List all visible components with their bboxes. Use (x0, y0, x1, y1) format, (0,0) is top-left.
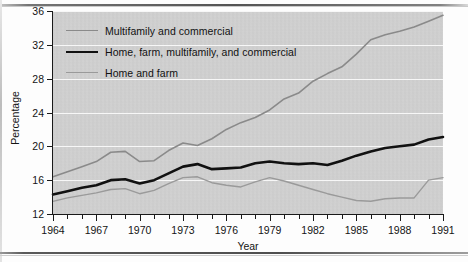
x-axis-tick-major (400, 215, 401, 221)
y-axis-line (52, 11, 53, 215)
x-axis-tick-label: 1982 (301, 224, 324, 236)
chart-figure: 12162024283236 1964196719701973197619791… (0, 0, 468, 262)
series-line (53, 137, 443, 195)
x-axis-tick-minor (241, 215, 242, 219)
y-axis-tick-label: 20 (32, 141, 44, 152)
x-axis-tick-label: 1991 (431, 224, 454, 236)
y-axis-tick (47, 11, 52, 12)
legend-line-swatch (66, 30, 98, 31)
x-axis-tick-minor (212, 215, 213, 219)
x-axis-tick-label: 1967 (85, 224, 108, 236)
x-axis-tick-major (96, 215, 97, 221)
x-axis-tick-major (140, 215, 141, 221)
y-axis-tick-labels: 12162024283236 (0, 0, 46, 262)
y-axis-tick (47, 180, 52, 181)
x-axis-tick-minor (342, 215, 343, 219)
x-axis-tick-label: 1976 (215, 224, 238, 236)
legend-item: Home, farm, multifamily, and commercial (66, 41, 366, 62)
y-axis-title: Percentage (9, 83, 21, 153)
y-axis-tick (47, 45, 52, 46)
y-axis-tick-label: 32 (32, 40, 44, 51)
legend-line-swatch (66, 72, 98, 73)
x-axis-title: Year (237, 240, 258, 252)
x-axis-tick-minor (284, 215, 285, 219)
x-axis-tick-label: 1979 (258, 224, 281, 236)
x-axis-tick-major (53, 215, 54, 221)
x-axis-tick-label: 1985 (345, 224, 368, 236)
x-axis-tick-minor (125, 215, 126, 219)
legend-item: Multifamily and commercial (66, 20, 366, 41)
x-axis-tick-minor (67, 215, 68, 219)
y-axis-tick (47, 79, 52, 80)
y-axis-tick-label: 16 (32, 175, 44, 186)
x-axis-tick-major (226, 215, 227, 221)
x-axis-tick-label: 1973 (171, 224, 194, 236)
x-axis-tick-label: 1988 (388, 224, 411, 236)
y-axis-tick (47, 113, 52, 114)
x-axis-tick-minor (111, 215, 112, 219)
page-bottom-rule (0, 252, 468, 254)
x-axis-tick-minor (299, 215, 300, 219)
x-axis-tick-label: 1970 (128, 224, 151, 236)
y-axis-tick-label: 12 (32, 209, 44, 220)
y-axis-tick (47, 214, 52, 215)
x-axis-tick-minor (371, 215, 372, 219)
legend-item-label: Home and farm (105, 67, 178, 79)
legend-item-label: Home, farm, multifamily, and commercial (105, 46, 296, 58)
x-axis-tick-minor (154, 215, 155, 219)
clipped-header-text (250, 0, 430, 2)
x-axis-tick-major (356, 215, 357, 221)
legend-item-label: Multifamily and commercial (105, 25, 233, 37)
page-bottom-rule-secondary (0, 255, 468, 256)
x-axis-tick-major (313, 215, 314, 221)
x-axis-tick-major (443, 215, 444, 221)
legend-line-swatch (66, 51, 98, 53)
x-axis-tick-major (270, 215, 271, 221)
x-axis-tick-minor (197, 215, 198, 219)
y-axis-tick (47, 146, 52, 147)
y-axis-tick-label: 28 (32, 74, 44, 85)
y-axis-tick-label: 24 (32, 108, 44, 119)
page-top-rule-secondary (0, 6, 468, 7)
x-axis-tick-minor (414, 215, 415, 219)
x-axis-tick-minor (82, 215, 83, 219)
y-axis-tick-label: 36 (32, 6, 44, 17)
x-axis-tick-label: 1964 (41, 224, 64, 236)
x-axis-tick-minor (169, 215, 170, 219)
x-axis-tick-minor (385, 215, 386, 219)
x-axis-tick-minor (327, 215, 328, 219)
chart-legend: Multifamily and commercialHome, farm, mu… (66, 20, 366, 83)
x-axis-tick-minor (429, 215, 430, 219)
x-axis-tick-major (183, 215, 184, 221)
legend-item: Home and farm (66, 62, 366, 83)
x-axis-tick-minor (255, 215, 256, 219)
